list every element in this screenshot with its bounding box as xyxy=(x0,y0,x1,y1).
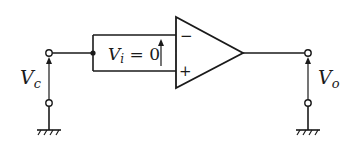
input-terminal-top xyxy=(46,50,52,56)
input-voltage-arrow xyxy=(46,57,52,100)
output-voltage-label: Vo xyxy=(318,66,340,91)
output-ground-icon xyxy=(296,130,320,135)
output-terminal-top xyxy=(305,50,311,56)
circuit-diagram: Vi = 0 − + Vc Vo xyxy=(0,0,355,146)
input-voltage-label: Vc xyxy=(20,66,42,91)
output-terminal-bottom xyxy=(305,100,311,106)
noninverting-input-sign: + xyxy=(179,62,192,80)
inverting-input-sign: − xyxy=(180,27,193,45)
input-ground-icon xyxy=(37,130,61,135)
differential-voltage-label: Vi = 0 xyxy=(108,44,160,66)
input-terminal-bottom xyxy=(46,100,52,106)
output-voltage-arrow xyxy=(305,57,311,100)
